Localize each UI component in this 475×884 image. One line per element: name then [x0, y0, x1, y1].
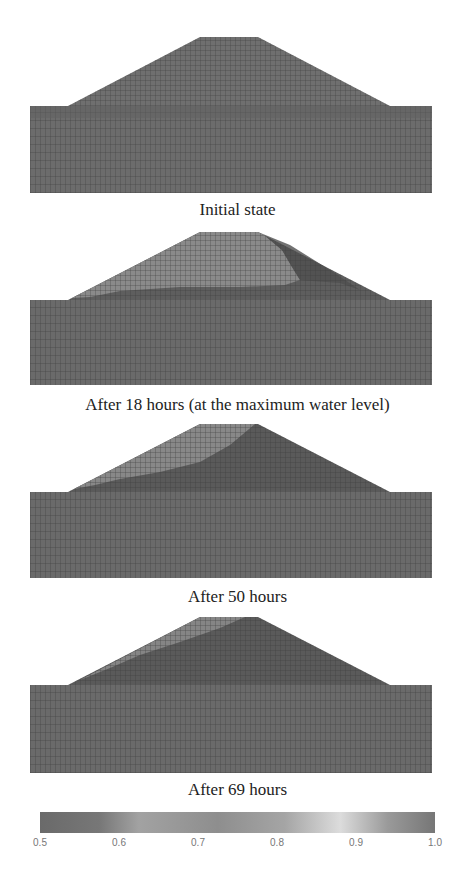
- panel-after-69-hours: After 69 hours: [0, 580, 475, 805]
- tick-label: 0.5: [33, 837, 47, 848]
- caption: After 69 hours: [0, 780, 475, 800]
- dam-mesh-50h: [0, 387, 475, 587]
- tick-label: 0.6: [112, 837, 126, 848]
- colorbar-ticks: 0.5 0.6 0.7 0.8 0.9 1.0: [40, 837, 435, 851]
- tick-label: 0.8: [270, 837, 284, 848]
- colorbar: [40, 812, 435, 833]
- panel-initial-state: Initial state: [0, 0, 475, 225]
- dam-mesh-initial: [0, 0, 475, 200]
- colorbar-gradient: [40, 812, 435, 833]
- dam-mesh-69h: [0, 580, 475, 780]
- tick-label: 0.7: [191, 837, 205, 848]
- panel-after-50-hours: After 50 hours: [0, 387, 475, 612]
- tick-label: 0.9: [349, 837, 363, 848]
- tick-label: 1.0: [428, 837, 442, 848]
- dam-mesh-18h: [0, 195, 475, 395]
